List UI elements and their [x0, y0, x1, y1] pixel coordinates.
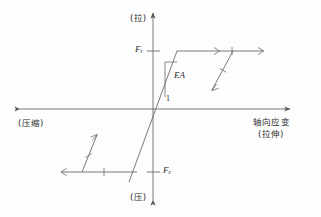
slope-run-label: 1 [166, 95, 170, 103]
branch-compression-reload [82, 135, 97, 172]
axial-force-strain-diagram: (拉) (压) (压缩) 轴向应变 (拉伸) Ft Fc EA 1 [0, 0, 321, 217]
left-axis-label: (压缩) [18, 119, 43, 128]
hysteresis-curve-group [61, 47, 264, 182]
tension-yield-subscript: t [141, 48, 143, 54]
tension-yield-label: Ft [135, 45, 142, 55]
x-axis-subtitle: (拉伸) [258, 130, 283, 139]
top-axis-label: (拉) [130, 14, 146, 23]
stiffness-label: EA [174, 71, 185, 80]
bottom-axis-label: (压) [130, 193, 146, 202]
y-tick-group [147, 51, 160, 172]
compression-yield-subscript: c [169, 169, 172, 175]
x-axis-title: 轴向应变 [253, 118, 290, 127]
plot-canvas [0, 0, 321, 217]
compression-yield-label: Fc [163, 166, 171, 176]
